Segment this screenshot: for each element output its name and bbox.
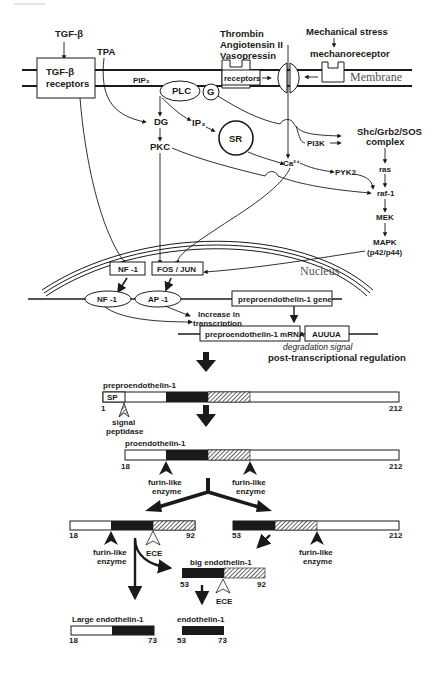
agonist-vasopressin: Vasopressin (220, 50, 276, 61)
large-et1-end: 73 (148, 636, 157, 645)
pkc-label: PKC (150, 141, 170, 152)
sp-label: SP (107, 393, 118, 402)
mek-label: MEK (376, 213, 394, 222)
big-et1-cterm-segment (224, 568, 265, 578)
dg-label: DG (154, 116, 168, 127)
pip2-label: PIP₂ (133, 76, 150, 85)
signal-peptidase-label-2: peptidase (106, 427, 144, 436)
ras-label: ras (379, 165, 392, 174)
membrane-label: Membrane (350, 70, 402, 84)
pi3k-label: PI3K (307, 139, 325, 148)
furin-label-3a: furin-like (93, 548, 127, 557)
degradation-signal-label: degradation signal (283, 342, 354, 352)
furin-label-1a: furin-like (148, 478, 182, 487)
plc-label: PLC (172, 85, 191, 96)
left-fragment-cterm-segment (153, 521, 195, 530)
mrna-label: preproendothelin-1 mRNA (205, 330, 305, 339)
ece-cleavage-icon-1 (146, 531, 160, 545)
mechanical-stress-label: Mechanical stress (306, 26, 388, 37)
sr-label: SR (229, 133, 242, 144)
prepro-end: 212 (389, 404, 403, 413)
mapk-label-2: (p42/p44) (367, 248, 402, 257)
prepro-et1-segment (166, 392, 208, 402)
pyk2-to-raf-arrow (354, 174, 373, 188)
raf-label: raf-1 (377, 189, 395, 198)
fosjun-activation-arrow (166, 278, 171, 290)
ion-channel-left (278, 63, 287, 93)
big-et1-start: 53 (180, 580, 189, 589)
increase-label-1: Increase in (198, 310, 240, 319)
prepro-cterm-segment (208, 392, 250, 402)
furin-label-2b: enzyme (236, 487, 266, 496)
large-et1-start: 18 (69, 636, 78, 645)
mapk-to-fosjun-arrow (205, 251, 365, 272)
g-to-pi3k-branch (296, 126, 305, 143)
ap1-oval-label: AP -1 (148, 295, 169, 304)
tgf-receptor-label-2: receptors (46, 78, 89, 89)
prepro-title: preproendothelin-1 (103, 381, 176, 390)
ion-channel-right (290, 63, 299, 93)
shc-complex-label-2: complex (366, 136, 405, 147)
mechanoreceptor-box (322, 62, 344, 82)
ip3-to-sr-arrow (206, 127, 214, 131)
signal-peptidase-label-1: signal (112, 418, 135, 427)
agonist-angiotensin: Angiotensin II (220, 39, 283, 50)
sr-to-ca-arrow (248, 152, 283, 164)
tgf-to-nf1-arrow (80, 98, 125, 263)
auuua-label: AUUUA (312, 330, 341, 339)
ece-cleavage-icon-2 (216, 579, 230, 593)
furin-label-1b: enzyme (152, 487, 182, 496)
signal-peptidase-icon (119, 403, 129, 417)
pro-end: 212 (389, 462, 403, 471)
ece-label-1: ECE (146, 549, 163, 558)
nf1-activation-arrow (118, 278, 127, 292)
mapk-label-1: MAPK (373, 238, 397, 247)
endothelin-pathway-diagram: TGF-β TGF-β receptors TPA PIP₂ PLC G DG … (0, 0, 433, 674)
furin-label-2a: furin-like (232, 478, 266, 487)
right-to-big-et1-arrow (258, 535, 270, 547)
right-fragment-end: 212 (389, 531, 403, 540)
et1-title: endothelin-1 (177, 615, 225, 624)
pro-title: proendothelin-1 (125, 439, 186, 448)
ap1-increase-arrow (165, 306, 190, 316)
prepro-start: 1 (101, 404, 106, 413)
large-et1-segment (112, 626, 154, 635)
agonist-thrombin: Thrombin (220, 28, 264, 39)
gene-label: preproendothelin-1 gene (238, 295, 332, 304)
big-et1-end: 92 (257, 580, 266, 589)
furin-cleavage-icon-1 (159, 461, 173, 475)
furin-cleavage-icon-2 (243, 461, 257, 475)
furin-cleavage-icon-3 (104, 531, 118, 545)
tpa-label: TPA (97, 46, 115, 57)
et1-start: 53 (177, 636, 186, 645)
furin-label-4a: furin-like (299, 548, 333, 557)
gpcr-receptor-label: receptors (224, 74, 261, 83)
left-fragment-end: 92 (186, 531, 195, 540)
pro-start: 18 (121, 462, 130, 471)
pyk2-label: PYK2 (335, 168, 356, 177)
g-protein-label: G (207, 86, 214, 97)
left-fragment-et1-segment (111, 521, 153, 530)
large-et1-title: Large endothelin-1 (72, 615, 144, 624)
tgf-receptor-label-1: TGF-β (46, 66, 74, 77)
fosjun-box-label: FOS / JUN (157, 265, 196, 274)
furin-label-3b: enzyme (97, 557, 127, 566)
down-arrow-1 (196, 352, 216, 372)
et1-segment (182, 626, 224, 635)
furin-label-4b: enzyme (303, 557, 333, 566)
nf1-oval-label: NF -1 (97, 295, 118, 304)
nf1-increase-arrow (105, 307, 192, 322)
prepro-bar (103, 392, 399, 402)
left-fragment-start: 18 (69, 531, 78, 540)
tpa-to-dg-arrow (103, 58, 145, 122)
right-fragment-cterm-segment (275, 521, 317, 530)
nf1-box-label: NF -1 (118, 265, 139, 274)
ece-label-2: ECE (216, 597, 233, 606)
post-transcriptional-label: post-transcriptional regulation (268, 352, 406, 363)
down-arrow-2 (196, 405, 216, 427)
big-et1-segment (182, 568, 224, 578)
pro-et1-segment (166, 450, 208, 460)
calcium-label: Ca²⁺ (283, 159, 300, 168)
tgf-beta-label: TGF-β (55, 28, 83, 39)
et1-end: 73 (218, 636, 227, 645)
